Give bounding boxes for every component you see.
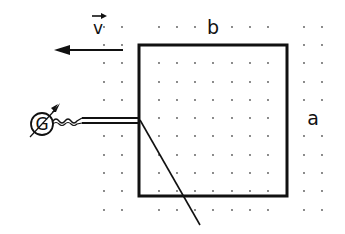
field-dot xyxy=(103,154,105,156)
field-dot xyxy=(121,135,123,137)
field-dot xyxy=(103,190,105,192)
field-dot xyxy=(303,62,305,64)
field-dot xyxy=(321,154,323,156)
field-dot xyxy=(303,190,305,192)
field-dot xyxy=(194,135,196,137)
field-dot xyxy=(158,209,160,211)
field-dot xyxy=(249,172,251,174)
field-dot xyxy=(231,99,233,101)
field-dot xyxy=(321,62,323,64)
field-dot xyxy=(267,209,269,211)
field-dot xyxy=(194,209,196,211)
field-dot xyxy=(194,190,196,192)
field-dot xyxy=(231,117,233,119)
field-dot xyxy=(231,154,233,156)
field-dot xyxy=(321,44,323,46)
field-dot xyxy=(176,154,178,156)
field-dot xyxy=(194,172,196,174)
velocity-symbol: v xyxy=(93,18,103,38)
field-dot xyxy=(249,154,251,156)
field-dot xyxy=(103,172,105,174)
field-dot xyxy=(249,81,251,83)
field-dot xyxy=(121,62,123,64)
field-dot xyxy=(321,209,323,211)
field-dot xyxy=(176,26,178,28)
sliding-rod xyxy=(140,120,200,225)
field-dot xyxy=(321,172,323,174)
galvanometer-label: G xyxy=(35,114,48,134)
field-dot xyxy=(249,209,251,211)
field-dot xyxy=(303,209,305,211)
field-dot xyxy=(267,26,269,28)
field-dot xyxy=(267,81,269,83)
velocity-arrow xyxy=(54,45,123,55)
field-dot xyxy=(321,81,323,83)
field-dot xyxy=(121,154,123,156)
field-dot xyxy=(212,209,214,211)
connecting-wire xyxy=(53,118,140,126)
field-dot xyxy=(267,62,269,64)
field-dot xyxy=(158,99,160,101)
field-dot xyxy=(249,190,251,192)
field-dot xyxy=(321,99,323,101)
field-dot xyxy=(267,172,269,174)
field-dot xyxy=(212,62,214,64)
field-dot xyxy=(303,172,305,174)
field-dot xyxy=(212,154,214,156)
field-dot xyxy=(121,209,123,211)
field-dot xyxy=(231,172,233,174)
field-dot xyxy=(121,99,123,101)
field-dot xyxy=(212,117,214,119)
field-dot xyxy=(231,209,233,211)
field-dot xyxy=(176,172,178,174)
field-dot xyxy=(231,26,233,28)
galvanometer-icon: G xyxy=(30,103,60,137)
field-dot xyxy=(121,172,123,174)
field-dot xyxy=(303,154,305,156)
field-dot xyxy=(303,99,305,101)
field-dot xyxy=(267,190,269,192)
field-dot xyxy=(103,209,105,211)
field-dot xyxy=(231,135,233,137)
field-dot xyxy=(158,135,160,137)
velocity-label: v xyxy=(92,13,107,38)
field-dot xyxy=(194,26,196,28)
vector-arrow-icon xyxy=(101,13,107,19)
field-dot xyxy=(103,135,105,137)
arrow-head-icon xyxy=(54,45,70,55)
field-dot xyxy=(303,81,305,83)
field-dot xyxy=(267,135,269,137)
field-dot xyxy=(176,135,178,137)
field-dot xyxy=(158,172,160,174)
field-dot xyxy=(121,44,123,46)
field-dot xyxy=(158,81,160,83)
field-dot xyxy=(194,154,196,156)
field-dot xyxy=(176,209,178,211)
field-dot xyxy=(194,99,196,101)
field-dot xyxy=(194,117,196,119)
field-dot xyxy=(103,26,105,28)
field-dot xyxy=(303,26,305,28)
field-dot xyxy=(176,117,178,119)
field-dot xyxy=(158,26,160,28)
field-dot xyxy=(103,62,105,64)
field-dot xyxy=(321,135,323,137)
field-dot xyxy=(249,135,251,137)
height-label: a xyxy=(307,107,319,129)
field-dot xyxy=(103,99,105,101)
field-dot xyxy=(194,62,196,64)
field-dot xyxy=(249,62,251,64)
field-dot xyxy=(176,81,178,83)
field-dot xyxy=(212,81,214,83)
field-dot xyxy=(194,81,196,83)
field-dot xyxy=(303,135,305,137)
field-dot xyxy=(249,117,251,119)
field-dot xyxy=(176,99,178,101)
field-dot xyxy=(212,135,214,137)
field-dot xyxy=(249,26,251,28)
field-dot xyxy=(267,99,269,101)
field-dot xyxy=(121,190,123,192)
field-dot xyxy=(158,190,160,192)
field-dot xyxy=(249,99,251,101)
field-dot xyxy=(176,190,178,192)
